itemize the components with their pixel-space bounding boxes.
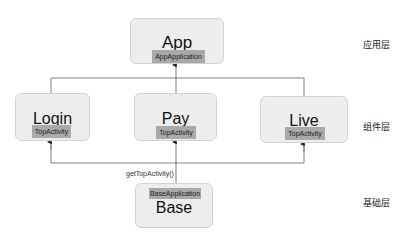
base-node: BaseApplication Base [135, 183, 213, 228]
base-layer-label: 基础层 [363, 196, 390, 209]
login-topactivity-tag: TopActivity [32, 125, 71, 138]
base-title: Base [136, 199, 212, 217]
live-node: Live TopActivity [260, 96, 348, 143]
app-application-tag: AppApplication [152, 50, 205, 63]
get-top-activity-label: getTopActivity() [126, 170, 174, 177]
app-node: App AppApplication [130, 18, 224, 64]
base-application-tag: BaseApplication [149, 188, 201, 199]
login-node: Login TopActivity [15, 93, 90, 141]
pay-node: Pay TopActivity [134, 93, 217, 141]
application-layer-label: 应用层 [363, 38, 390, 51]
live-topactivity-tag: TopActivity [285, 127, 325, 140]
pay-topactivity-tag: TopActivity [156, 126, 196, 139]
component-layer-label: 组件层 [363, 120, 390, 133]
